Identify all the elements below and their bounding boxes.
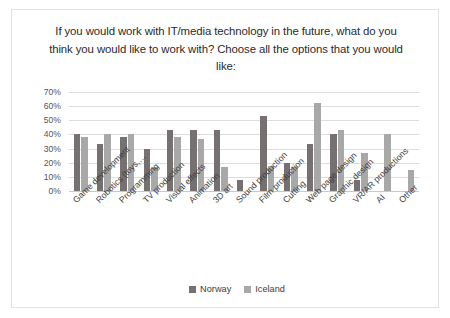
- y-axis-tick-label: 70%: [44, 87, 61, 97]
- bar-iceland: [81, 137, 87, 191]
- bar-norway: [74, 134, 80, 191]
- y-axis-tick-label: 60%: [44, 101, 61, 111]
- bar-group: [69, 92, 92, 191]
- y-axis-tick-label: 40%: [44, 129, 61, 139]
- bar-iceland: [314, 103, 320, 191]
- chart-legend: NorwayIceland: [12, 284, 450, 294]
- y-axis-tick-label: 30%: [44, 144, 61, 154]
- y-axis-tick-label: 20%: [44, 158, 61, 168]
- bar-iceland: [384, 134, 390, 191]
- legend-swatch: [189, 286, 196, 293]
- bar-norway: [354, 180, 360, 191]
- bar-norway: [284, 163, 290, 191]
- bar-norway: [237, 180, 243, 191]
- bar-group: [302, 92, 325, 191]
- bar-iceland: [221, 167, 227, 191]
- x-axis-tick-label: AI: [374, 192, 387, 205]
- legend-swatch: [244, 286, 251, 293]
- bar-iceland: [198, 139, 204, 191]
- y-axis-tick-label: 50%: [44, 115, 61, 125]
- bar-group: [349, 92, 372, 191]
- bar-iceland: [268, 166, 274, 191]
- legend-entry[interactable]: Norway: [189, 284, 231, 294]
- bar-iceland: [151, 167, 157, 191]
- y-axis-tick-label: 0%: [49, 186, 61, 196]
- bar-iceland: [408, 170, 414, 191]
- y-axis: 70%60%50%40%30%20%10%0%: [12, 92, 64, 191]
- bar-group: [256, 92, 279, 191]
- legend-entry[interactable]: Iceland: [244, 284, 285, 294]
- bar-group: [396, 92, 419, 191]
- legend-label: Norway: [200, 284, 231, 294]
- bar-iceland: [128, 134, 134, 191]
- gridline: [69, 191, 419, 192]
- bar-group: [279, 92, 302, 191]
- bar-iceland: [104, 134, 110, 191]
- bars-layer: [69, 92, 419, 191]
- bar-group: [372, 92, 395, 191]
- chart-frame: If you would work with IT/media technolo…: [11, 9, 439, 308]
- bar-iceland: [291, 167, 297, 191]
- bar-norway: [144, 149, 150, 191]
- bar-norway: [167, 130, 173, 191]
- bar-norway: [97, 144, 103, 191]
- bar-norway: [330, 134, 336, 191]
- bar-group: [326, 92, 349, 191]
- bar-norway: [120, 137, 126, 191]
- bar-iceland: [338, 130, 344, 191]
- bar-group: [232, 92, 255, 191]
- bar-norway: [214, 130, 220, 191]
- plot-area: [69, 92, 419, 191]
- bar-group: [116, 92, 139, 191]
- bar-norway: [307, 144, 313, 191]
- bar-group: [92, 92, 115, 191]
- bar-norway: [190, 130, 196, 191]
- y-axis-tick-label: 10%: [44, 172, 61, 182]
- bar-group: [209, 92, 232, 191]
- bar-iceland: [174, 137, 180, 191]
- legend-label: Iceland: [255, 284, 285, 294]
- bar-iceland: [361, 153, 367, 191]
- bar-group: [186, 92, 209, 191]
- chart-title: If you would work with IT/media technolo…: [48, 23, 404, 76]
- bar-group: [162, 92, 185, 191]
- bar-norway: [260, 116, 266, 191]
- bar-group: [139, 92, 162, 191]
